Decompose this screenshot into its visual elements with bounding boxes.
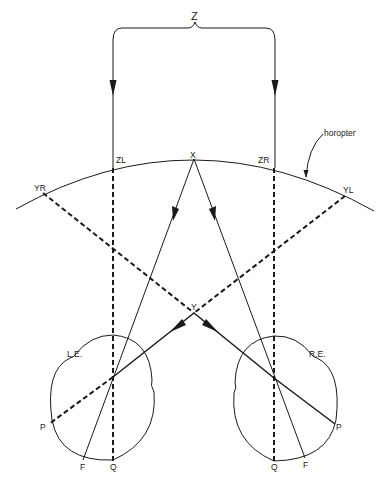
yr-to-y-dashed [43, 193, 194, 313]
label-z: Z [191, 10, 198, 22]
label-y: Y [191, 302, 197, 312]
label-right-f: F [303, 460, 308, 470]
label-right-eye: R.E. [309, 349, 326, 359]
label-left-f: F [80, 462, 85, 472]
horopter-diagram: Z horopter X ZL ZR YR YL L.E. R.E. Y P F… [0, 0, 389, 480]
horopter-arc [16, 160, 374, 211]
x-left-arrow-icon [172, 206, 179, 221]
label-right-p: P [336, 422, 342, 432]
label-yl: YL [343, 185, 354, 195]
label-left-p: P [40, 422, 46, 432]
label-zr: ZR [258, 155, 269, 165]
label-left-q: Q [110, 462, 117, 472]
label-left-eye: L.E. [67, 349, 82, 359]
label-horopter: horopter [324, 128, 356, 138]
left-z-arrow-icon [110, 80, 117, 96]
right-z-arrow-icon [272, 80, 279, 96]
label-right-q: Q [271, 462, 278, 472]
yl-to-y-dashed [194, 196, 345, 313]
label-x: X [190, 150, 196, 160]
label-zl: ZL [116, 155, 126, 165]
label-yr: YR [34, 183, 46, 193]
z-brace [113, 22, 275, 40]
horopter-pointer-arrow-icon [304, 170, 309, 178]
x-right-arrow-icon [209, 206, 216, 221]
horopter-pointer [306, 134, 323, 177]
